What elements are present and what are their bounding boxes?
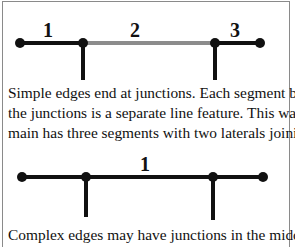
junction-2 <box>210 38 220 48</box>
caption-line: main has three segments with two lateral… <box>8 123 290 143</box>
simple-edges-diagram: 1 2 3 <box>0 0 295 90</box>
complex-edges-caption: Complex edges may have junctions in the … <box>8 225 290 245</box>
segment-1-label: 1 <box>43 19 53 41</box>
junction-1 <box>78 38 88 48</box>
caption-line: the junctions is a separate line feature… <box>8 103 290 123</box>
simple-edges-caption: Simple edges end at junctions. Each segm… <box>8 83 290 143</box>
junction-endpoint-right <box>255 38 265 48</box>
caption-line: Complex edges may have junctions in the … <box>8 225 290 245</box>
segment-3-label: 3 <box>230 19 240 41</box>
segment-2-label: 2 <box>130 19 140 41</box>
junction-endpoint-left <box>15 38 25 48</box>
caption-line: Simple edges end at junctions. Each segm… <box>8 83 290 103</box>
